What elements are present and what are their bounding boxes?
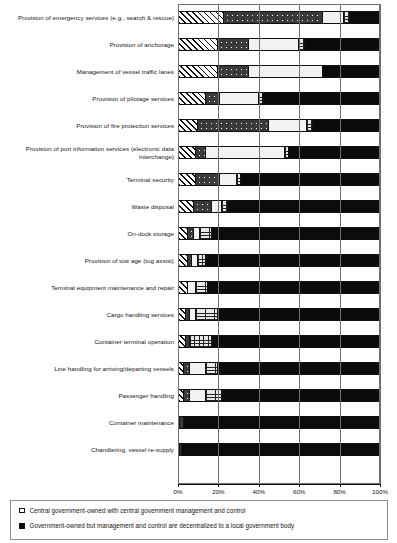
bar-segment: [212, 227, 380, 240]
bar-segment: [208, 281, 380, 294]
legend-label: Government-owned but management and cont…: [30, 522, 295, 529]
bar-segment: [178, 173, 196, 186]
category-label: Provision of emergency services (e.g., s…: [0, 14, 178, 22]
bar-segment: [178, 119, 198, 132]
x-axis-tick-label: 60%: [293, 488, 305, 495]
stacked-bar: [178, 11, 380, 24]
category-label: Cargo handling services: [0, 311, 178, 319]
bar-cell: [178, 112, 380, 139]
x-axis-tick: [218, 484, 219, 487]
bar-segment: [200, 227, 212, 240]
bar-segment: [218, 308, 380, 321]
bar-segment: [178, 11, 224, 24]
stacked-bar: [178, 362, 380, 375]
bar-segment: [206, 389, 222, 402]
bar-segment: [178, 308, 186, 321]
bar-segment: [249, 38, 300, 51]
stacked-bar: [178, 173, 380, 186]
bar-cell: [178, 436, 380, 463]
category-label: Provision of tow age (tug assist): [0, 257, 178, 265]
bar-row: Passenger handling: [0, 382, 397, 409]
bar-segment: [212, 335, 380, 348]
bar-segment: [196, 173, 220, 186]
category-label: Passenger handling: [0, 392, 178, 400]
stacked-bar: [178, 200, 380, 213]
bar-segment: [323, 65, 380, 78]
chart-legend: Central government-owned with central go…: [10, 500, 388, 540]
bar-segment: [212, 200, 222, 213]
bar-segment: [218, 65, 248, 78]
stacked-bar: [178, 146, 380, 159]
bar-segment: [350, 11, 380, 24]
stacked-bar: [178, 92, 380, 105]
bar-segment: [178, 200, 194, 213]
bar-segment: [178, 65, 218, 78]
bar-row: On-dock storage: [0, 220, 397, 247]
bar-row: Chandlering, vessel re-supply: [0, 436, 397, 463]
x-axis-tick: [380, 484, 381, 487]
bar-segment: [218, 362, 380, 375]
bar-segment: [178, 281, 188, 294]
plot-area: Provision of emergency services (e.g., s…: [0, 4, 397, 484]
bar-segment: [220, 92, 258, 105]
bar-segment: [206, 254, 380, 267]
category-label: Terminal security: [0, 176, 178, 184]
bar-segment: [178, 38, 218, 51]
legend-item: Central government-owned with central go…: [19, 507, 379, 514]
bar-cell: [178, 139, 380, 166]
x-axis-tick-label: 100%: [372, 488, 388, 495]
bar-cell: [178, 355, 380, 382]
bar-segment: [228, 200, 380, 213]
bar-cell: [178, 4, 380, 31]
x-axis-line: [178, 484, 380, 485]
bar-segment: [198, 254, 206, 267]
bar-row: Provision of emergency services (e.g., s…: [0, 4, 397, 31]
stacked-bar: [178, 227, 380, 240]
bar-segment: [222, 389, 380, 402]
bar-segment: [206, 362, 218, 375]
bar-cell: [178, 274, 380, 301]
x-axis-tick-label: 80%: [333, 488, 345, 495]
legend-label: Central government-owned with central go…: [30, 507, 246, 514]
x-axis-tick: [178, 484, 179, 487]
x-axis-tick: [259, 484, 260, 487]
bar-segment: [178, 92, 206, 105]
bar-segment: [190, 335, 212, 348]
bar-rows: Provision of emergency services (e.g., s…: [0, 4, 397, 463]
stacked-bar: [178, 416, 380, 429]
x-axis-tick: [340, 484, 341, 487]
bar-row: Provision of fire protection services: [0, 112, 397, 139]
bar-segment: [289, 146, 380, 159]
x-axis-tick-label: 40%: [253, 488, 265, 495]
x-axis-tick-label: 0%: [174, 488, 183, 495]
legend-swatch-open-square-icon: [19, 508, 25, 514]
stacked-bar: [178, 119, 380, 132]
category-label: Provision of pilotage services: [0, 95, 178, 103]
stacked-bar: [178, 389, 380, 402]
bar-row: Container maintenance: [0, 409, 397, 436]
category-label: Management of vessel traffic lanes: [0, 68, 178, 76]
bar-row: Line handling for arriving/departing ves…: [0, 355, 397, 382]
bar-segment: [263, 92, 380, 105]
stacked-bar: [178, 65, 380, 78]
bar-cell: [178, 58, 380, 85]
stacked-bar: [178, 281, 380, 294]
bar-segment: [305, 38, 380, 51]
bar-segment: [206, 146, 285, 159]
category-label: Provision of fire protection services: [0, 122, 178, 130]
bar-cell: [178, 166, 380, 193]
category-label: Container terminal operation: [0, 338, 178, 346]
bar-row: Container terminal operation: [0, 328, 397, 355]
bar-segment: [182, 443, 380, 456]
bar-segment: [196, 146, 206, 159]
category-label: Terminal equipment maintenance and repai…: [0, 284, 178, 292]
bar-segment: [206, 92, 220, 105]
bar-segment: [220, 173, 236, 186]
legend-swatch-filled-square-icon: [19, 523, 25, 529]
bar-segment: [194, 200, 212, 213]
bar-segment: [184, 416, 380, 429]
bar-row: Management of vessel traffic lanes: [0, 58, 397, 85]
bar-segment: [190, 362, 206, 375]
category-label: Waste disposal: [0, 203, 178, 211]
stacked-bar: [178, 38, 380, 51]
